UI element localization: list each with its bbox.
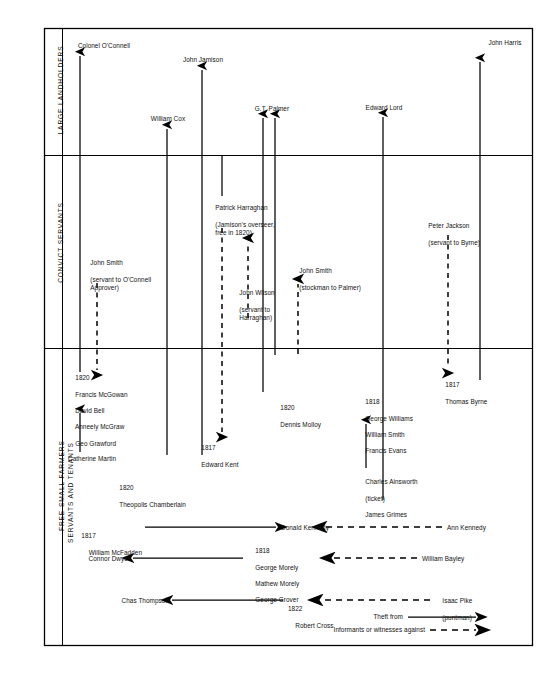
relation-year: 1818: [255, 547, 269, 554]
group-year: 1820: [280, 404, 294, 411]
group-1817-edward-kent: 1817 Edward Kent: [194, 436, 238, 477]
label-peter-jackson: Peter Jackson (servant to Byrne): [421, 214, 480, 255]
label-john-wilson: John Wilson (servant to Harraghan): [232, 281, 275, 330]
relation-name: Robert Cross: [295, 622, 333, 629]
convict-name: John Smith: [90, 259, 122, 266]
group-name: Thomas Byrne: [445, 398, 487, 405]
convict-note: (servant to Harraghan): [239, 306, 272, 322]
convict-note: (Jamison's overseer, free in 1820): [215, 221, 274, 237]
group-1820-chamberlain: 1820 Theopolis Chamberlain: [112, 476, 186, 517]
relation-1-middle: Donald Kennedy: [281, 524, 329, 532]
group-name: William Smith: [365, 431, 404, 438]
group-name: Geo Grawford: [75, 440, 116, 447]
group-name: George Williams: [365, 415, 413, 422]
legend-informants-label: Informants or witnesses against: [334, 626, 425, 634]
group-name: Anneely McGraw: [75, 423, 124, 430]
group-name: David Bell: [75, 407, 104, 414]
group-name: James Grimes: [365, 511, 407, 518]
convict-name: John Smith: [299, 267, 331, 274]
relation-1-right: Ann Kennedy: [447, 524, 486, 532]
convict-note: (servant to Byrne): [428, 239, 480, 247]
group-name: Charles Ainsworth: [365, 478, 417, 485]
label-catherine-martin: Catherine Martin: [68, 455, 116, 463]
group-1818-george-williams: 1818 George Williams William Smith Franc…: [358, 390, 413, 464]
relation-name: George Morely: [255, 564, 298, 571]
group-1820-mcgowan: 1820 Francis McGowan David Bell Anneely …: [68, 366, 128, 456]
label-gt-palmer: G.T. Palmer: [255, 105, 289, 113]
group-year: 1817: [445, 381, 459, 388]
group-year: 1820: [75, 374, 89, 381]
band-label-convict-servants: CONVICT SERVANTS: [57, 165, 64, 320]
relation-3-left: Chas Thompson: [122, 597, 169, 605]
legend-theft-from-label: Theft from: [373, 613, 403, 621]
group-1820-dennis-molloy: 1820 Dennis Molloy: [273, 396, 321, 437]
convict-note: (servant to O'Connell Approver): [90, 276, 151, 292]
label-john-smith-palmer: John Smith (stockman to Palmer): [292, 259, 361, 300]
label-patrick-harraghan: Patrick Harraghan (Jamison's overseer, f…: [208, 196, 275, 245]
convict-name: Patrick Harraghan: [215, 204, 267, 211]
group-year: 1820: [119, 484, 133, 491]
convict-name: Peter Jackson: [428, 222, 469, 229]
relation-name: Mathew Morely: [255, 580, 299, 587]
relation-note: (puntman): [442, 614, 472, 621]
group-name: Dennis Molloy: [280, 421, 321, 428]
group-name: Francis Evans: [365, 447, 406, 454]
relation-name: Isaac Pike: [442, 597, 472, 604]
label-john-smith-oconnell: John Smith (servant to O'Connell Approve…: [83, 251, 151, 300]
relation-2-right: William Bayley: [422, 555, 464, 563]
group-1817-thomas-byrne: 1817 Thomas Byrne: [438, 373, 487, 414]
convict-name: John Wilson: [239, 289, 274, 296]
relation-3-right: Isaac Pike (puntman): [435, 589, 472, 630]
group-charles-ainsworth: Charles Ainsworth (ticket) James Grimes: [358, 470, 418, 527]
relation-2-left: Connor Dwyer: [89, 555, 130, 563]
label-william-cox: William Cox: [151, 115, 185, 123]
label-john-harris: John Harris: [488, 39, 521, 47]
diagram-canvas: LARGE LANDHOLDERS CONVICT SERVANTS FREE …: [0, 0, 558, 674]
band-label-large-landholders: LARGE LANDHOLDERS: [57, 35, 64, 145]
group-note: (ticket): [365, 495, 385, 502]
relation-year: 1817: [81, 532, 142, 540]
group-year: 1818: [365, 398, 379, 405]
group-name: Theopolis Chamberlain: [119, 501, 186, 508]
label-colonel-oconnell: Colonel O'Connell: [78, 42, 130, 50]
relation-3-middle: 1822 Robert Cross: [288, 589, 334, 638]
relation-year: 1822: [288, 605, 334, 613]
group-name: Francis McGowan: [75, 391, 127, 398]
group-name: Edward Kent: [201, 461, 238, 468]
group-year: 1817: [201, 444, 215, 451]
label-john-jamison: John Jamison: [183, 56, 223, 64]
label-edward-lord: Edward Lord: [366, 104, 403, 112]
convict-note: (stockman to Palmer): [299, 284, 361, 292]
